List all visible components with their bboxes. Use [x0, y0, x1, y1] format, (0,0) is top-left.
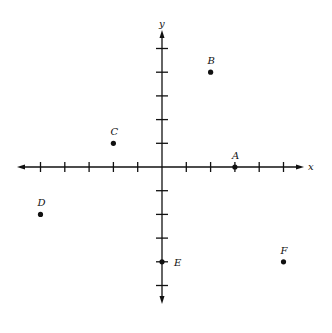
- point-b: [208, 70, 213, 75]
- point-d: [38, 212, 43, 217]
- y-axis-down-arrow: [160, 296, 165, 304]
- x-axis-right-arrow: [296, 165, 304, 170]
- point-label-b: B: [207, 55, 215, 66]
- point-label-a: A: [231, 150, 239, 161]
- point-label-f: F: [280, 245, 289, 256]
- x-axis-label: x: [308, 161, 314, 172]
- point-e: [159, 259, 164, 264]
- point-label-e: E: [173, 257, 182, 268]
- point-a: [232, 164, 237, 169]
- point-label-d: D: [37, 197, 46, 208]
- y-axis-up-arrow: [160, 30, 165, 38]
- x-axis-left-arrow: [17, 165, 25, 170]
- point-label-c: C: [110, 126, 118, 137]
- point-c: [111, 141, 116, 146]
- coordinate-plane: ABCDEF x y: [0, 0, 332, 333]
- point-f: [281, 259, 286, 264]
- y-axis-label: y: [158, 18, 165, 29]
